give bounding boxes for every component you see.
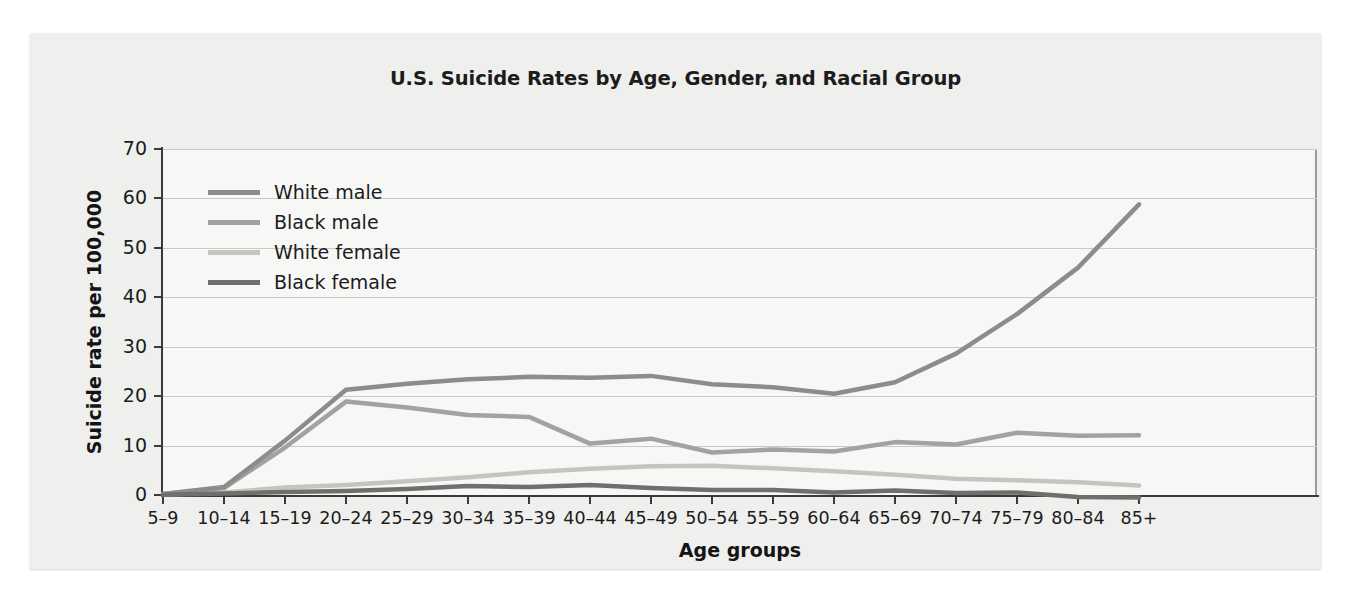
x-tick-label: 40–44 <box>563 508 616 528</box>
y-tick-label: 0 <box>135 483 147 505</box>
x-tick <box>833 495 835 504</box>
y-tick: 20 <box>154 395 163 397</box>
x-tick <box>772 495 774 504</box>
y-tick: 40 <box>154 296 163 298</box>
x-tick <box>223 495 225 504</box>
x-tick <box>345 495 347 504</box>
legend-swatch-icon <box>208 280 260 285</box>
x-tick-label: 85+ <box>1121 508 1158 528</box>
x-tick-label: 65–69 <box>868 508 921 528</box>
x-tick-label: 35–39 <box>502 508 555 528</box>
x-tick <box>589 495 591 504</box>
x-tick-label: 30–34 <box>441 508 494 528</box>
x-tick <box>894 495 896 504</box>
x-tick-label: 5–9 <box>147 508 178 528</box>
x-tick <box>284 495 286 504</box>
x-tick <box>711 495 713 504</box>
chart-title: U.S. Suicide Rates by Age, Gender, and R… <box>30 67 1321 90</box>
x-tick-label: 25–29 <box>380 508 433 528</box>
legend-swatch-icon <box>208 190 260 195</box>
x-tick <box>467 495 469 504</box>
x-tick-label: 60–64 <box>807 508 860 528</box>
y-tick-label: 50 <box>123 236 147 258</box>
y-tick-label: 60 <box>123 186 147 208</box>
x-tick-label: 45–49 <box>624 508 677 528</box>
x-tick-label: 75–79 <box>990 508 1043 528</box>
x-tick-label: 50–54 <box>685 508 738 528</box>
legend-label: Black female <box>274 271 397 293</box>
y-tick: 30 <box>154 346 163 348</box>
y-axis-label: Suicide rate per 100,000 <box>83 190 105 454</box>
legend-item-white-female[interactable]: White female <box>208 237 438 267</box>
legend: White maleBlack maleWhite femaleBlack fe… <box>208 177 438 297</box>
legend-label: Black male <box>274 211 379 233</box>
x-tick <box>650 495 652 504</box>
x-tick <box>406 495 408 504</box>
legend-item-black-male[interactable]: Black male <box>208 207 438 237</box>
legend-label: White male <box>274 181 382 203</box>
x-tick-label: 70–74 <box>929 508 982 528</box>
y-tick-label: 70 <box>123 137 147 159</box>
legend-label: White female <box>274 241 401 263</box>
figure-panel: U.S. Suicide Rates by Age, Gender, and R… <box>30 33 1321 569</box>
x-tick-label: 10–14 <box>197 508 250 528</box>
y-tick: 10 <box>154 445 163 447</box>
legend-item-white-male[interactable]: White male <box>208 177 438 207</box>
y-tick: 60 <box>154 197 163 199</box>
legend-item-black-female[interactable]: Black female <box>208 267 438 297</box>
x-axis-label: Age groups <box>679 539 801 561</box>
x-tick-label: 80–84 <box>1051 508 1104 528</box>
y-tick-label: 40 <box>123 285 147 307</box>
y-tick-label: 10 <box>123 434 147 456</box>
x-tick-label: 55–59 <box>746 508 799 528</box>
legend-swatch-icon <box>208 250 260 255</box>
y-tick: 70 <box>154 148 163 150</box>
y-tick-label: 20 <box>123 384 147 406</box>
x-tick-label: 15–19 <box>258 508 311 528</box>
y-tick: 50 <box>154 247 163 249</box>
x-tick-label: 20–24 <box>319 508 372 528</box>
x-tick <box>1016 495 1018 504</box>
x-tick <box>528 495 530 504</box>
x-tick <box>955 495 957 504</box>
legend-swatch-icon <box>208 220 260 225</box>
x-axis-line <box>161 495 1319 497</box>
y-tick-label: 30 <box>123 335 147 357</box>
